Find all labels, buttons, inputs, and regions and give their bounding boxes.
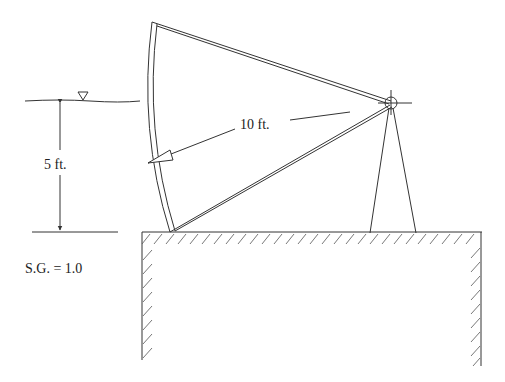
pier-support-right <box>393 108 416 233</box>
diagram-canvas: 5 ft. 10 ft. S.G. = 1.0 <box>0 0 505 382</box>
radius-label: 10 ft. <box>240 117 270 133</box>
tainter-gate-drawing <box>0 0 505 382</box>
depth-label: 5 ft. <box>44 157 67 173</box>
gate-bottom-strut <box>170 105 390 232</box>
specific-gravity-label: S.G. = 1.0 <box>25 261 82 277</box>
inverted-triangle-icon <box>78 92 88 100</box>
gate-top-strut <box>152 22 391 101</box>
pier-support-left <box>370 108 389 233</box>
radius-dimension-line <box>290 112 350 120</box>
ground-hatching <box>142 234 480 366</box>
water-surface-line <box>25 100 140 102</box>
